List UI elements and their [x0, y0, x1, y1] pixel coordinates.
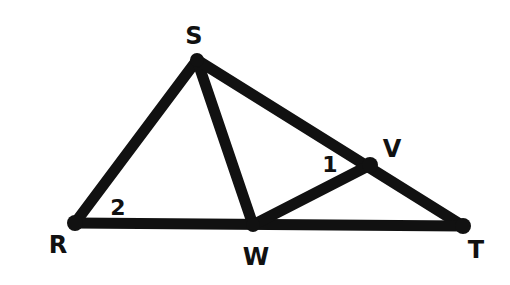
vertex-S-dot: [190, 53, 204, 67]
vertex-label-V: V: [383, 137, 402, 161]
vertex-label-T: T: [468, 238, 484, 262]
segment-SR: [75, 60, 197, 223]
vertex-V-dot: [362, 157, 378, 173]
vertex-label-W: W: [243, 245, 269, 269]
vertex-label-S: S: [185, 24, 202, 48]
segment-RT: [75, 223, 463, 226]
segment-ST: [197, 60, 463, 226]
vertex-T-dot: [455, 218, 471, 234]
vertex-W-dot: [246, 218, 260, 232]
angle-label-2: 2: [110, 197, 125, 219]
segment-WV: [253, 165, 370, 225]
vertex-label-R: R: [49, 233, 67, 257]
vertex-R-dot: [67, 215, 83, 231]
angle-label-1: 1: [322, 154, 337, 176]
